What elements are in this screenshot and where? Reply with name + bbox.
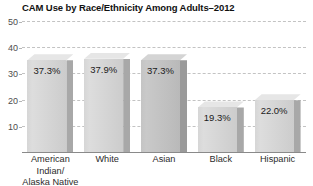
bar-side-face: [294, 100, 301, 152]
x-axis-line: [22, 152, 306, 153]
y-axis-tick-mark: [19, 101, 22, 102]
bar-value-label: 37.9%: [84, 64, 123, 75]
bar-side-face: [123, 59, 130, 152]
bar-value-label: 37.3%: [141, 65, 180, 76]
bar-side-face: [180, 60, 187, 152]
bar[interactable]: 37.3%: [27, 54, 73, 152]
y-axis-tick-mark: [19, 22, 22, 23]
gridline: 40: [22, 47, 306, 48]
bar[interactable]: 37.9%: [84, 53, 130, 152]
bar[interactable]: 37.3%: [141, 54, 187, 152]
y-axis-tick-label: 20: [8, 96, 18, 106]
x-axis-category-label: American Indian/ Alaska Native: [18, 154, 83, 186]
chart-title: CAM Use by Race/Ethnicity Among Adults–2…: [22, 2, 235, 13]
bar[interactable]: 19.3%: [198, 101, 244, 152]
y-axis-tick-mark: [19, 48, 22, 49]
bar-value-label: 22.0%: [255, 105, 294, 116]
x-axis-category-label: Black: [188, 154, 253, 166]
x-axis-category-label: Asian: [132, 154, 197, 166]
bar[interactable]: 22.0%: [255, 94, 301, 152]
bar-value-label: 19.3%: [198, 112, 237, 123]
x-axis-category-label: Hispanic: [245, 154, 310, 166]
gridline: 50: [22, 21, 306, 22]
y-axis-tick-mark: [19, 74, 22, 75]
y-axis-tick-label: 30: [8, 69, 18, 79]
bar-side-face: [66, 60, 73, 152]
bar-side-face: [237, 107, 244, 152]
y-axis-tick-mark: [19, 127, 22, 128]
bar-value-label: 37.3%: [27, 65, 66, 76]
y-axis-tick-label: 50: [8, 17, 18, 27]
x-axis-category-label: White: [75, 154, 140, 166]
y-axis-tick-label: 10: [8, 122, 18, 132]
y-axis-tick-label: 40: [8, 43, 18, 53]
chart-container: CAM Use by Race/Ethnicity Among Adults–2…: [0, 0, 313, 186]
